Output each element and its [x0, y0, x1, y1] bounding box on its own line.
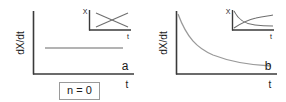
panel-n1-xlabel: t	[269, 79, 272, 90]
panel-n0-inset-ylabel: X	[83, 8, 88, 15]
panel-n1-inset-curves	[234, 11, 273, 28]
panel-n1-inset-xlabel: t	[270, 33, 272, 40]
panel-n0-inset-curves	[96, 13, 128, 27]
panel-n0-axes	[33, 11, 134, 75]
panel-n0-caption: n = 0	[59, 82, 100, 100]
kinetics-figure: dX/dt t a X t n = 0	[0, 0, 286, 102]
panel-n1-curve-b	[178, 14, 271, 66]
panel-n0-inset-xlabel: t	[127, 33, 129, 40]
panel-n1: dX/dt t b X t n = 1	[143, 0, 286, 102]
panel-n1-inset-axes	[232, 10, 274, 31]
panel-n1-curve-label: b	[265, 59, 272, 73]
panel-n1-ylabel: dX/dt	[158, 31, 169, 55]
panel-n1-inset-ylabel: X	[226, 8, 231, 15]
panel-n0-inset-axes	[89, 10, 131, 31]
panel-n0-curve-label: a	[122, 59, 129, 73]
panel-n0-xlabel: t	[126, 79, 129, 90]
panel-n0: dX/dt t a X t n = 0	[0, 0, 143, 102]
panel-n1-plot: dX/dt t b X t	[143, 0, 286, 102]
panel-n0-ylabel: dX/dt	[15, 31, 26, 55]
